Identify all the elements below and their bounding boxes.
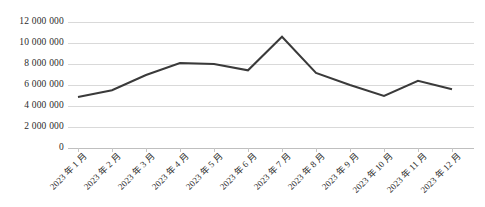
series-layer <box>0 0 485 207</box>
data-series-line <box>78 37 452 97</box>
line-chart: 02 000 0004 000 0006 000 0008 000 00010 … <box>0 0 485 207</box>
